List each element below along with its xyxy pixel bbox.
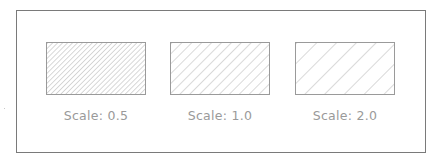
- scale-label: Scale: 0.5: [26, 108, 166, 123]
- scale-label: Scale: 1.0: [150, 108, 290, 123]
- hatch-swatch-scale-1-0: [170, 42, 270, 95]
- hatch-swatch-scale-0-5: [46, 42, 146, 95]
- hatch-pattern-coarse: [296, 43, 395, 95]
- hatch-pattern-medium: [171, 43, 270, 95]
- hatch-pattern-fine: [47, 43, 146, 95]
- hatch-swatch-scale-2-0: [295, 42, 395, 95]
- scale-label: Scale: 2.0: [275, 108, 415, 123]
- stray-mark: [4, 108, 5, 109]
